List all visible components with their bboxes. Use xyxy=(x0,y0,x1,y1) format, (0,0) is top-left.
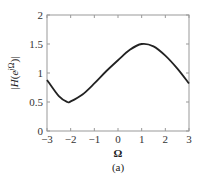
x-tick-label: 1 xyxy=(139,133,145,145)
x-tick-label: −2 xyxy=(65,133,77,145)
x-tick-label: 2 xyxy=(163,133,169,145)
magnitude-curve xyxy=(47,44,189,103)
x-tick-label: 3 xyxy=(186,133,192,145)
y-tick-label: 0.5 xyxy=(29,96,43,108)
x-tick-label: 0 xyxy=(115,133,121,145)
svg-text:|H(ejΩ)|: |H(ejΩ)| xyxy=(7,57,22,90)
x-tick-label: −1 xyxy=(88,133,100,145)
plot-frame xyxy=(47,15,189,131)
y-tick-label: 2 xyxy=(38,9,44,21)
figure-caption: (a) xyxy=(112,161,125,174)
x-axis-label: Ω xyxy=(114,147,123,159)
y-axis-label: |H(ejΩ)| xyxy=(7,57,22,90)
y-tick-label: 1.5 xyxy=(29,38,43,50)
y-ticks: 00.511.52 xyxy=(29,9,189,137)
y-tick-label: 0 xyxy=(38,125,44,137)
x-ticks: −3−2−10123 xyxy=(41,15,192,145)
chart: −3−2−10123 00.511.52 Ω (a) |H(ejΩ)| xyxy=(0,0,201,181)
y-tick-label: 1 xyxy=(38,67,44,79)
